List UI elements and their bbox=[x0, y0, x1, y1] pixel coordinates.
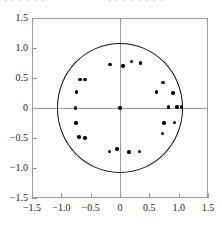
data-point bbox=[83, 136, 86, 139]
y-tick-label: −0.5 bbox=[0, 133, 28, 143]
data-point bbox=[162, 121, 165, 124]
y-tick bbox=[32, 48, 37, 49]
x-tick bbox=[179, 193, 180, 198]
x-tick-label: −1.5 bbox=[17, 203, 47, 213]
data-point bbox=[180, 105, 183, 108]
x-tick bbox=[91, 193, 92, 198]
data-point bbox=[108, 63, 111, 66]
y-tick-label: 1.0 bbox=[0, 43, 28, 53]
data-point bbox=[175, 105, 178, 108]
data-point bbox=[167, 105, 170, 108]
x-tick-label: 1.0 bbox=[164, 203, 194, 213]
x-tick bbox=[149, 193, 150, 198]
x-tick bbox=[120, 193, 121, 198]
data-point bbox=[121, 64, 124, 67]
y-tick-label: 1.5 bbox=[0, 13, 28, 23]
data-point bbox=[75, 90, 78, 93]
data-point bbox=[118, 106, 121, 109]
y-tick bbox=[32, 138, 37, 139]
data-point bbox=[83, 78, 86, 81]
x-tick-label: 0.5 bbox=[134, 203, 164, 213]
data-point bbox=[74, 121, 77, 124]
x-tick-label: 0 bbox=[105, 203, 135, 213]
data-point bbox=[161, 132, 164, 135]
x-tick bbox=[208, 193, 209, 198]
y-tick-label: 0.5 bbox=[0, 73, 28, 83]
data-point bbox=[74, 106, 77, 109]
data-point bbox=[78, 78, 81, 81]
scatter-plot-figure: −1.5−1.0−0.500.51.01.5 −1.5−1.0−0.500.51… bbox=[0, 0, 222, 229]
data-point bbox=[115, 147, 118, 150]
x-tick-label: −1.0 bbox=[46, 203, 76, 213]
data-point bbox=[77, 135, 80, 138]
data-point bbox=[161, 81, 164, 84]
data-point bbox=[127, 150, 130, 153]
y-tick-label: 0 bbox=[0, 103, 28, 113]
y-tick bbox=[32, 18, 37, 19]
y-tick-label: −1.0 bbox=[0, 163, 28, 173]
data-point bbox=[139, 61, 142, 64]
data-point bbox=[138, 150, 141, 153]
y-tick bbox=[32, 108, 37, 109]
y-tick bbox=[32, 198, 37, 199]
data-point bbox=[171, 91, 174, 94]
data-point bbox=[108, 150, 111, 153]
x-tick-label: 1.5 bbox=[193, 203, 222, 213]
x-tick-label: −0.5 bbox=[76, 203, 106, 213]
y-tick bbox=[32, 168, 37, 169]
x-tick bbox=[32, 193, 33, 198]
data-point bbox=[155, 90, 158, 93]
y-tick bbox=[32, 78, 37, 79]
x-tick bbox=[61, 193, 62, 198]
